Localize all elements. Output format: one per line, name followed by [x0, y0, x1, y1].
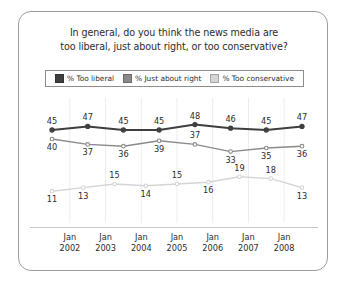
data-label: 37	[82, 147, 92, 157]
data-label: 45	[118, 116, 128, 126]
legend-item-too-liberal: % Too liberal	[55, 74, 114, 83]
data-point	[157, 139, 161, 143]
data-label: 15	[172, 170, 182, 180]
x-tick-2003: Jan2003	[86, 232, 126, 254]
x-tick-2007: Jan2007	[228, 232, 268, 254]
chart-title: In general, do you think the news media …	[29, 26, 319, 53]
data-point	[175, 182, 179, 186]
chart-plot-area: 1113151415161918134037363937333536454745…	[28, 98, 320, 223]
data-point	[264, 128, 268, 132]
chart-legend: % Too liberal % Just about right % Too c…	[45, 70, 304, 87]
x-tick-year: 2003	[86, 243, 126, 254]
data-label: 15	[109, 170, 119, 180]
data-point	[50, 137, 54, 141]
data-point	[207, 180, 211, 184]
x-tick-year: 2007	[228, 243, 268, 254]
x-tick-2004: Jan2004	[121, 232, 161, 254]
data-label: 39	[154, 144, 164, 154]
x-tick-month: Jan	[228, 232, 268, 243]
data-point	[50, 128, 54, 132]
x-tick-month: Jan	[121, 232, 161, 243]
legend-swatch-too-liberal	[55, 74, 64, 83]
chart-title-line-1: In general, do you think the news media …	[70, 27, 278, 38]
data-point	[50, 189, 54, 193]
data-label: 13	[78, 191, 88, 201]
x-tick-2005: Jan2005	[157, 232, 197, 254]
x-tick-year: 2008	[264, 243, 304, 254]
x-tick-2002: Jan2002	[50, 232, 90, 254]
data-point	[300, 124, 304, 128]
data-label: 36	[118, 149, 128, 159]
data-point	[229, 150, 233, 154]
data-label: 45	[261, 116, 271, 126]
x-tick-month: Jan	[193, 232, 233, 243]
chart-card: In general, do you think the news media …	[18, 11, 328, 271]
data-label: 48	[190, 111, 200, 121]
data-label: 18	[266, 165, 276, 175]
data-label: 40	[47, 142, 57, 152]
data-point	[193, 123, 197, 127]
x-axis-tick-labels: Jan2002Jan2003Jan2004Jan2005Jan2006Jan20…	[30, 232, 318, 262]
data-label: 13	[297, 191, 307, 201]
data-point	[157, 128, 161, 132]
data-point	[122, 144, 126, 148]
data-point	[300, 144, 304, 148]
legend-label-just-about-right: % Just about right	[135, 74, 201, 83]
data-label: 36	[297, 149, 307, 159]
legend-item-just-about-right: % Just about right	[123, 74, 201, 83]
x-tick-month: Jan	[86, 232, 126, 243]
data-label: 16	[203, 185, 213, 195]
data-point	[86, 143, 90, 147]
data-point	[238, 175, 242, 179]
x-tick-year: 2005	[157, 243, 197, 254]
x-tick-year: 2006	[193, 243, 233, 254]
data-label: 33	[225, 155, 235, 165]
data-point	[86, 124, 90, 128]
x-tick-year: 2002	[50, 243, 90, 254]
legend-label-too-conservative: % Too conservative	[222, 74, 294, 83]
legend-swatch-too-conservative	[210, 74, 219, 83]
data-point	[300, 186, 304, 190]
data-label: 35	[261, 151, 271, 161]
data-point	[193, 143, 197, 147]
x-tick-2006: Jan2006	[193, 232, 233, 254]
x-tick-month: Jan	[264, 232, 304, 243]
x-tick-month: Jan	[50, 232, 90, 243]
x-tick-2008: Jan2008	[264, 232, 304, 254]
legend-swatch-just-about-right	[123, 74, 132, 83]
legend-label-too-liberal: % Too liberal	[67, 74, 114, 83]
data-point	[269, 177, 273, 181]
data-label: 14	[141, 189, 151, 199]
data-point	[121, 128, 125, 132]
x-tick-year: 2004	[121, 243, 161, 254]
data-point	[144, 184, 148, 188]
data-label: 19	[234, 163, 244, 173]
data-label: 47	[297, 112, 307, 122]
chart-svg: 1113151415161918134037363937333536454745…	[28, 98, 320, 223]
data-point	[229, 126, 233, 130]
data-label: 45	[154, 116, 164, 126]
chart-title-line-2: too liberal, just about right, or too co…	[60, 41, 287, 52]
legend-item-too-conservative: % Too conservative	[210, 74, 294, 83]
x-axis-line	[30, 227, 318, 228]
vertical-gridlines	[70, 98, 284, 223]
data-label: 46	[225, 114, 235, 124]
data-point	[82, 186, 86, 190]
data-label: 11	[47, 194, 57, 204]
data-label: 45	[47, 116, 57, 126]
data-label: 37	[190, 130, 200, 140]
data-point	[113, 182, 117, 186]
data-point	[265, 146, 269, 150]
data-label: 47	[82, 112, 92, 122]
x-tick-month: Jan	[157, 232, 197, 243]
